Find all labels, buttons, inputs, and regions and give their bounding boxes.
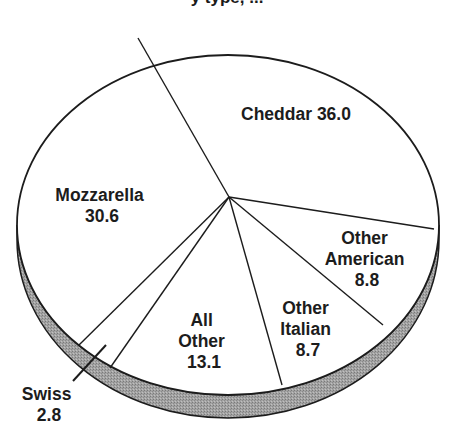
label-cheddar: Cheddar 36.0 <box>241 104 351 124</box>
label-swiss: Swiss 2.8 <box>22 384 77 425</box>
pie-chart: Cheddar 36.0 Mozzarella 30.6 Other Ameri… <box>0 0 454 436</box>
